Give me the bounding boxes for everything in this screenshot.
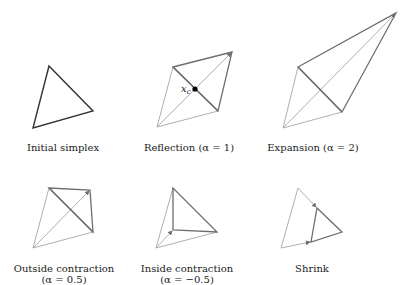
old-edge <box>157 67 173 127</box>
old-edge <box>283 67 298 128</box>
caption-initial-simplex: Initial simplex <box>27 142 99 153</box>
old-edge <box>283 112 342 128</box>
shrink-ray <box>281 242 310 248</box>
caption-inside-contraction-line2: (α = −0.5) <box>160 274 214 285</box>
old-edge <box>157 111 218 127</box>
panel-outside-contraction: Outside contraction (α = 0.5) <box>14 188 115 285</box>
caption-reflection: Reflection (α = 1) <box>144 142 234 153</box>
centroid-label: xc <box>181 83 191 96</box>
panel-shrink: Shrink <box>281 188 342 274</box>
nelder-mead-operations-diagram: Initial simplex xc Reflection (α = 1) Ex… <box>0 0 416 285</box>
old-edge <box>281 188 298 248</box>
old-edge <box>33 232 93 248</box>
caption-outside-contraction-line2: (α = 0.5) <box>41 274 86 285</box>
shrunk-simplex <box>311 208 342 242</box>
contracted-simplex <box>173 188 217 232</box>
shared-edge <box>298 67 342 112</box>
centroid-point <box>192 86 197 91</box>
caption-inside-contraction-line1: Inside contraction <box>141 263 234 274</box>
old-edge <box>33 188 49 248</box>
old-edge <box>156 232 217 248</box>
panel-initial-simplex: Initial simplex <box>27 66 99 153</box>
panel-expansion: Expansion (α = 2) <box>267 13 396 153</box>
panel-reflection: xc Reflection (α = 1) <box>144 52 234 153</box>
caption-outside-contraction-line1: Outside contraction <box>14 263 115 274</box>
expansion-ray <box>283 14 395 128</box>
caption-shrink: Shrink <box>295 263 330 274</box>
initial-simplex-triangle <box>33 66 93 128</box>
caption-expansion: Expansion (α = 2) <box>267 142 358 153</box>
shrink-ray <box>298 188 316 207</box>
panel-inside-contraction: Inside contraction (α = −0.5) <box>141 188 234 285</box>
